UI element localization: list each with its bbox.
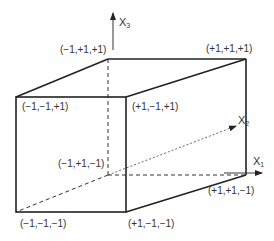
x1-axis-label: X1 <box>253 155 264 171</box>
x2-axis-label: X2 <box>238 114 249 130</box>
vertex-label-back-top-left: (−1,+1,+1) <box>60 44 106 56</box>
vertex-label-front-bottom-right: (+1,−1,−1) <box>128 218 174 230</box>
vertex-label-back-bottom-left: (−1,+1,−1) <box>58 158 104 170</box>
x3-axis-label: X3 <box>119 16 130 32</box>
vertex-label-front-top-right: (+1,−1,+1) <box>132 101 178 113</box>
vertex-label-front-top-left: (−1,−1,+1) <box>22 101 68 113</box>
vertex-label-back-bottom-right: (+1,+1,−1) <box>208 185 254 197</box>
vertex-label-back-top-right: (+1,+1,+1) <box>206 43 252 55</box>
x2-axis <box>108 126 236 175</box>
vertex-label-front-bottom-left: (−1,−1,−1) <box>20 218 66 230</box>
cube-diagram <box>0 0 274 241</box>
